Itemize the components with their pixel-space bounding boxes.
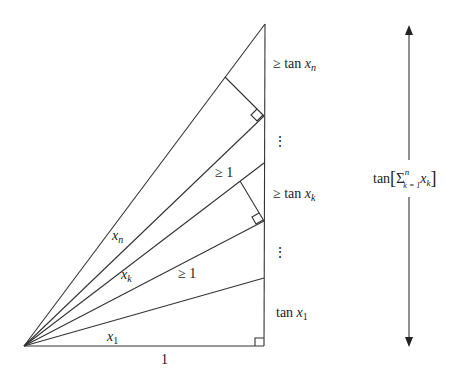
tan-x1-label: tan x1 xyxy=(276,305,308,322)
ray-n xyxy=(24,24,265,346)
perpendicular-upper xyxy=(225,77,264,116)
vdots-upper: ⋮ xyxy=(273,134,287,149)
arrow-up-icon xyxy=(405,25,413,35)
geq-one-upper-label: ≥ 1 xyxy=(215,165,233,180)
tangent-sum-diagram: 1 x1 xk xn ≥ 1 ≥ 1 ≥ tan xn ≥ tan xk tan… xyxy=(0,0,464,380)
angle-x1-label: x1 xyxy=(106,329,118,346)
ray-2 xyxy=(24,221,264,346)
vdots-lower: ⋮ xyxy=(273,245,287,260)
angle-xn-label: xn xyxy=(111,228,123,245)
perpendicular-lower xyxy=(240,181,264,221)
geq-one-lower-label: ≥ 1 xyxy=(178,266,196,281)
arrow-down-icon xyxy=(405,337,413,347)
right-angle-base-icon xyxy=(255,338,264,346)
ray-3 xyxy=(24,163,264,346)
total-tan-label: tan[Σnk = 1xk] xyxy=(373,167,437,190)
base-label: 1 xyxy=(161,352,168,367)
geq-tan-xk-label: ≥ tan xk xyxy=(273,186,316,203)
angle-xk-label: xk xyxy=(120,267,132,284)
geq-tan-xn-label: ≥ tan xn xyxy=(273,56,316,73)
vertical-side xyxy=(264,24,265,346)
